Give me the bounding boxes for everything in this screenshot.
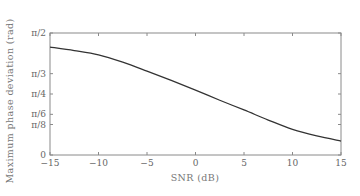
y-tick-labels: 0π/8π/6π/4π/3π/2: [31, 28, 46, 160]
data-curve: [50, 47, 341, 141]
x-tick-labels: −15−10−5051015: [41, 158, 347, 168]
y-axis-label: Maximum phase deviation (rad): [4, 18, 15, 183]
phase-deviation-chart: −15−10−5051015 0π/8π/6π/4π/3π/2 SNR (dB)…: [0, 0, 360, 196]
x-tick-label: 5: [241, 158, 247, 168]
x-tick-label: 10: [287, 158, 299, 168]
x-tick-label: −5: [140, 158, 154, 168]
x-tick-label: 15: [335, 158, 347, 168]
plot-frame: [50, 33, 341, 155]
y-tick-label: 0: [40, 150, 46, 160]
y-tick-label: π/6: [31, 109, 46, 119]
ticks-layer: [50, 33, 341, 155]
y-tick-label: π/3: [31, 69, 46, 79]
y-tick-label: π/8: [31, 120, 46, 130]
x-axis-label: SNR (dB): [171, 172, 220, 183]
y-tick-label: π/4: [31, 89, 46, 99]
x-tick-label: 0: [193, 158, 199, 168]
y-tick-label: π/2: [31, 28, 46, 38]
x-tick-label: −10: [89, 158, 108, 168]
